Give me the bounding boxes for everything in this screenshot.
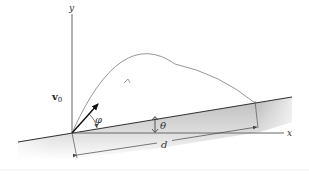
projectile-incline-diagram: y x d v0 φ θ xyxy=(0,0,309,175)
distance-label: d xyxy=(161,139,167,150)
launch-angle: φ xyxy=(89,114,102,128)
trajectory-direction-marker xyxy=(124,79,130,83)
x-axis-label: x xyxy=(287,128,292,138)
phi-label: φ xyxy=(95,114,102,125)
y-axis-label: y xyxy=(68,3,75,13)
velocity-label: v0 xyxy=(51,91,62,104)
theta-label: θ xyxy=(160,120,166,131)
